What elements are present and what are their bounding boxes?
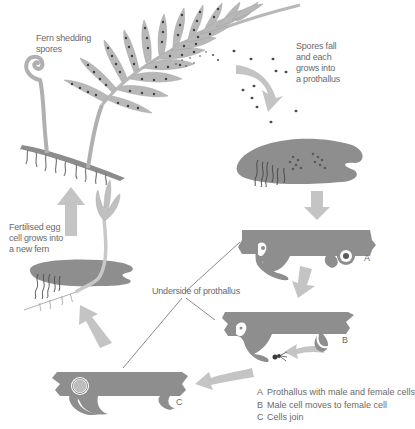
leader-lines xyxy=(123,242,240,368)
falling-spores xyxy=(175,50,297,123)
prothallus-stage-c xyxy=(52,372,188,415)
legend-item: BMale cell moves to female cell xyxy=(257,399,415,412)
legend-item: AProthallus with male and female cells xyxy=(257,386,415,399)
label-fern-shedding-spores: Fern shedding spores xyxy=(36,33,91,55)
male-cell xyxy=(273,352,288,361)
prothallus-stage-b xyxy=(222,312,354,362)
label-stage-a: A xyxy=(364,253,370,264)
legend-item: CCells join xyxy=(257,411,415,424)
label-spores-fall: Spores fall and each grows into a protha… xyxy=(296,41,340,85)
label-underside-of-prothallus: Underside of prothallus xyxy=(152,286,240,297)
legend: AProthallus with male and female cells B… xyxy=(257,386,415,424)
label-stage-c: C xyxy=(176,397,182,408)
label-stage-b: B xyxy=(342,335,348,346)
label-fertilised-egg: Fertilised egg cell grows into a new fer… xyxy=(9,222,63,255)
prothallus-top-view xyxy=(237,139,363,187)
